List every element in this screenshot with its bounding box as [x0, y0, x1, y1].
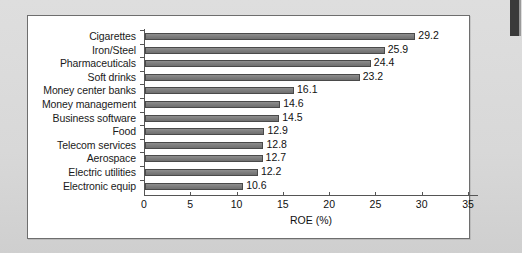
y-axis-tick: [140, 152, 144, 153]
x-axis-title: ROE (%): [144, 214, 478, 226]
x-axis-tick: [375, 192, 376, 196]
bar: [145, 101, 280, 108]
bar-row: 10.6: [145, 180, 469, 194]
bar: [145, 33, 415, 40]
category-label: Money center banks: [28, 84, 141, 98]
bar-value-label: 25.9: [385, 43, 408, 57]
bar: [145, 115, 279, 122]
x-axis-tick-label: 35: [462, 198, 474, 210]
bar-value-label: 10.6: [243, 179, 266, 193]
bar-value-label: 12.7: [263, 151, 286, 165]
x-axis-tick-label: 25: [370, 198, 382, 210]
x-axis-tick: [190, 192, 191, 196]
category-label: Business software: [28, 112, 141, 126]
category-label: Electric utilities: [28, 166, 141, 180]
bar-value-label: 24.4: [371, 56, 394, 70]
y-axis-tick: [140, 180, 144, 181]
bar-value-label: 29.2: [415, 29, 438, 43]
bar-row: 24.4: [145, 57, 469, 71]
y-axis-tick: [140, 166, 144, 167]
category-label: Soft drinks: [28, 71, 141, 85]
chart-panel: CigarettesIron/SteelPharmaceuticalsSoft …: [27, 15, 470, 239]
x-axis-tick-label: 30: [416, 198, 428, 210]
bar: [145, 60, 371, 67]
bar-row: 16.1: [145, 84, 469, 98]
bar: [145, 47, 385, 54]
bar-row: 12.7: [145, 152, 469, 166]
bar-row: 29.2: [145, 30, 469, 44]
bar-row: 14.6: [145, 98, 469, 112]
bar-value-label: 12.9: [264, 124, 287, 138]
x-axis-tick: [422, 192, 423, 196]
bars-plot-area: 29.225.924.423.216.114.614.512.912.812.7…: [145, 30, 469, 195]
bar-value-label: 12.8: [263, 138, 286, 152]
category-label: Pharmaceuticals: [28, 57, 141, 71]
category-label: Telecom services: [28, 139, 141, 153]
x-axis-tick-label: 0: [141, 198, 147, 210]
x-axis-tick-label: 10: [231, 198, 243, 210]
bar-row: 25.9: [145, 44, 469, 58]
category-label: Cigarettes: [28, 30, 141, 44]
bar-row: 23.2: [145, 71, 469, 85]
category-label: Iron/Steel: [28, 44, 141, 58]
bar-value-label: 16.1: [294, 83, 317, 97]
y-axis-tick: [140, 125, 144, 126]
bar-value-label: 14.5: [279, 111, 302, 125]
category-label: Money management: [28, 98, 141, 112]
x-axis-tick: [237, 192, 238, 196]
x-axis-line: [144, 195, 478, 196]
x-axis-tick: [329, 192, 330, 196]
bar-value-label: 12.2: [258, 165, 281, 179]
category-axis-labels: CigarettesIron/SteelPharmaceuticalsSoft …: [28, 30, 141, 193]
bar-row: 12.8: [145, 139, 469, 153]
bar: [145, 74, 360, 81]
x-axis-tick: [283, 192, 284, 196]
bar-chart: CigarettesIron/SteelPharmaceuticalsSoft …: [28, 16, 469, 238]
category-label: Food: [28, 125, 141, 139]
y-axis-tick: [140, 112, 144, 113]
y-axis-tick: [140, 57, 144, 58]
x-axis-tick-label: 20: [323, 198, 335, 210]
y-axis-tick: [140, 84, 144, 85]
category-label: Aerospace: [28, 152, 141, 166]
bar-row: 12.9: [145, 125, 469, 139]
bar-row: 12.2: [145, 166, 469, 180]
x-axis-tick: [144, 192, 145, 196]
bar-row: 14.5: [145, 112, 469, 126]
y-axis-tick: [140, 71, 144, 72]
bar-value-label: 23.2: [360, 70, 383, 84]
y-axis-tick: [140, 30, 144, 31]
bar: [145, 128, 264, 135]
x-axis-tick-label: 5: [187, 198, 193, 210]
x-axis-tick: [468, 192, 469, 196]
bar: [145, 142, 263, 149]
x-axis-tick-label: 15: [277, 198, 289, 210]
bar: [145, 169, 258, 176]
y-axis-tick: [140, 98, 144, 99]
bar: [145, 87, 294, 94]
bar: [145, 183, 243, 190]
bar-value-label: 14.6: [280, 97, 303, 111]
category-label: Electronic equip: [28, 180, 141, 194]
scan-edge-artifact: [510, 0, 521, 36]
bar: [145, 155, 263, 162]
y-axis-tick: [140, 139, 144, 140]
y-axis-tick: [140, 44, 144, 45]
